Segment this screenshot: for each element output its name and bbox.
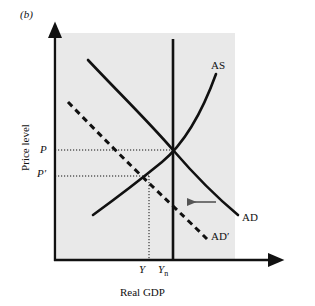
price-level-P-label: P [40, 144, 47, 155]
output-Y-label: Y [139, 264, 145, 275]
x-axis-title: Real GDP [120, 287, 165, 298]
curve-label-ad-prime: AD′ [211, 231, 229, 242]
curve-label-as: AS [211, 60, 225, 71]
panel-label: (b) [20, 9, 33, 20]
curve-label-ad: AD [242, 212, 258, 223]
y-axis-title: Price level [20, 105, 31, 191]
output-Yn-label: Yn [158, 264, 168, 278]
economics-as-ad-diagram [0, 0, 315, 306]
output-Yn-subscript: n [164, 269, 168, 278]
plot-background [57, 33, 235, 259]
price-level-P-prime-label: P′ [37, 168, 46, 179]
figure-container: (b) Price level Real GDP P P′ Y Yn AS AD… [0, 0, 315, 306]
